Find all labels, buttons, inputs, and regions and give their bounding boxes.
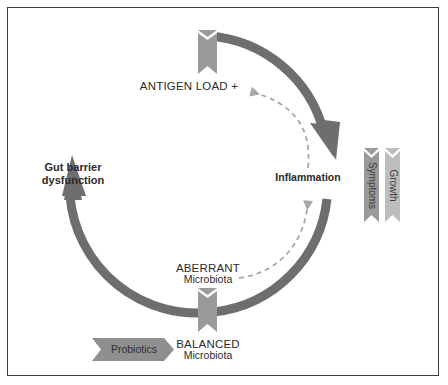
growth-ribbon-label: Growth xyxy=(388,161,399,211)
probiotics-banner-label[interactable]: Probiotics xyxy=(101,343,167,355)
node-sublabel-balanced: Microbiota xyxy=(158,350,258,362)
top-ribbon xyxy=(198,30,217,74)
symptoms-ribbon-label: Symptoms xyxy=(367,161,378,211)
node-label-antigen-load: ANTIGEN LOAD + xyxy=(124,80,254,93)
bottom-ribbon xyxy=(198,288,217,332)
cycle-arc-lower-right xyxy=(214,199,327,312)
figure-root: ANTIGEN LOAD + Inflammation ABERRANT Mic… xyxy=(0,0,448,385)
node-label-inflammation: Inflammation xyxy=(258,172,358,184)
cycle-arrow-right xyxy=(208,36,340,160)
node-label-gut-barrier: Gut barrier xyxy=(18,161,128,173)
diagram-canvas xyxy=(0,0,448,385)
dashed-link-inflammation-to-antigen xyxy=(252,92,309,168)
node-sublabel-gut-barrier: dysfunction xyxy=(18,174,128,186)
node-sublabel-aberrant: Microbiota xyxy=(158,274,258,286)
